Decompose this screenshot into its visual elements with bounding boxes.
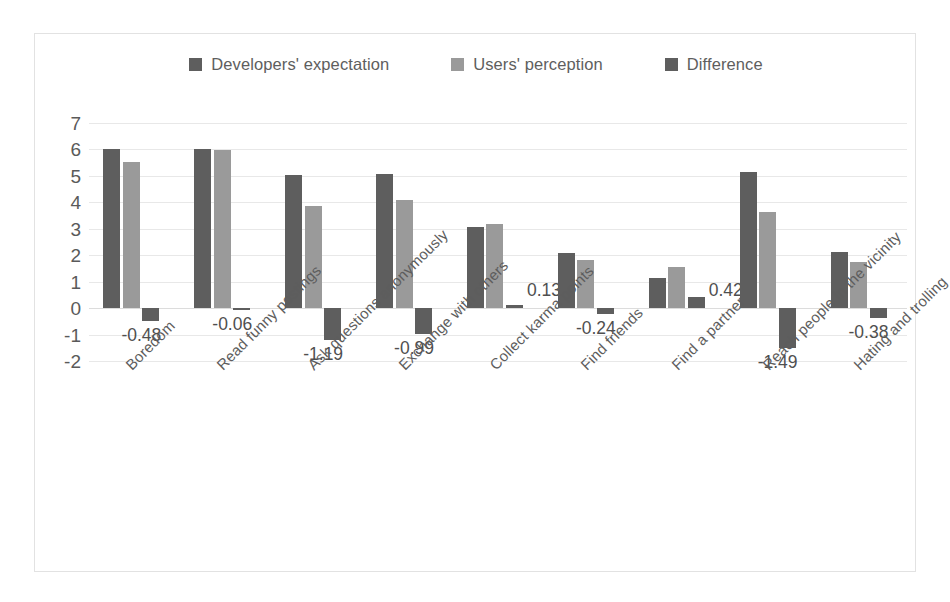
bar-users-perception [759, 212, 776, 308]
legend-item-difference: Difference [665, 55, 763, 74]
bar-developers-expectation [103, 149, 120, 308]
y-axis-tick-label: 2 [70, 246, 81, 265]
y-axis-tick-label: -1 [64, 325, 81, 344]
y-axis-tick-label: 7 [70, 114, 81, 133]
bar-difference [597, 308, 614, 314]
x-axis-category-labels: BoredomRead funny postingsAsk questions … [89, 361, 907, 571]
bar-users-perception [668, 267, 685, 308]
legend-label-developers-expectation: Developers' expectation [211, 55, 389, 74]
bar-users-perception [214, 150, 231, 308]
y-axis-tick-label: 0 [70, 299, 81, 318]
chart-container: Developers' expectation Users' perceptio… [34, 33, 916, 572]
bar-users-perception [123, 162, 140, 308]
legend-swatch-users-perception [451, 58, 464, 71]
y-axis-tick-label: 3 [70, 219, 81, 238]
legend-item-developers-expectation: Developers' expectation [189, 55, 389, 74]
bar-users-perception [305, 206, 322, 308]
legend-swatch-difference [665, 58, 678, 71]
bar-difference [870, 308, 887, 318]
bar-developers-expectation [649, 278, 666, 308]
legend-swatch-developers-expectation [189, 58, 202, 71]
bar-difference [142, 308, 159, 321]
bar-difference [233, 308, 250, 310]
y-axis-tick-label: 6 [70, 140, 81, 159]
bar-difference [506, 305, 523, 308]
y-axis-tick-label: -2 [64, 352, 81, 371]
bar-groups: -0.48-0.06-1.19-0.990.13-0.240.42-1.49-0… [89, 123, 907, 361]
bar-developers-expectation [194, 149, 211, 308]
bar-difference [688, 297, 705, 308]
y-axis-tick-label: 1 [70, 272, 81, 291]
y-axis-tick-label: 5 [70, 166, 81, 185]
bar-developers-expectation [740, 172, 757, 308]
legend-item-users-perception: Users' perception [451, 55, 603, 74]
legend-label-difference: Difference [687, 55, 763, 74]
legend-label-users-perception: Users' perception [473, 55, 603, 74]
plot-area: -0.48-0.06-1.19-0.990.13-0.240.42-1.49-0… [89, 123, 907, 361]
y-axis: 76543210-1-2 [55, 123, 89, 361]
y-axis-tick-label: 4 [70, 193, 81, 212]
chart-legend: Developers' expectation Users' perceptio… [35, 55, 917, 74]
